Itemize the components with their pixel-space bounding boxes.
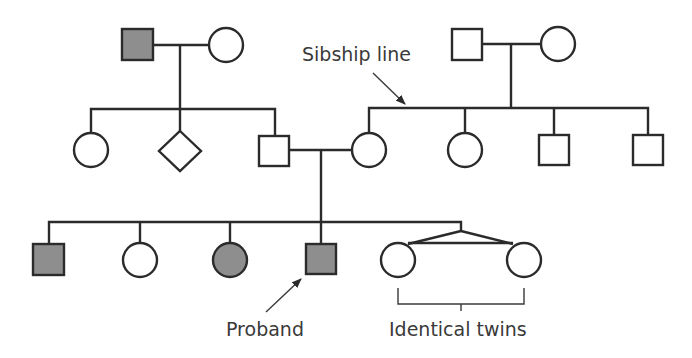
male-symbol [259,136,289,166]
sibship-line-arrow [373,73,405,104]
male-symbol [539,135,569,165]
sibship-line-gen3 [49,222,461,244]
affected-male-symbol [33,244,64,275]
unknown-sex-diamond-symbol [159,131,201,171]
proband-affected-male-symbol [306,244,336,274]
gen3-sibship [33,222,541,277]
gen1-right-couple [452,27,575,108]
sibship-line-label: Sibship line [302,43,411,65]
gen2-left-sibship [74,109,289,171]
identical-twins-label: Identical twins [389,318,527,340]
female-symbol [209,28,243,62]
female-symbol [352,133,386,167]
proband-label: Proband [226,318,304,340]
sibship-line-left [91,109,275,136]
proband-arrow [266,279,301,312]
affected-female-symbol [213,243,247,277]
male-symbol [452,29,482,60]
female-symbol [74,133,108,167]
female-symbol [448,133,482,167]
identical-twin-female-symbol [507,243,541,277]
gen2-right-sibship [352,108,663,167]
female-symbol [123,243,157,277]
affected-male-symbol [122,29,153,60]
twins-bracket [398,288,524,304]
gen1-left-couple [122,28,243,110]
male-symbol [633,135,663,165]
female-symbol [541,27,575,61]
identical-twin-female-symbol [381,243,415,277]
sibship-line-right [369,108,648,135]
